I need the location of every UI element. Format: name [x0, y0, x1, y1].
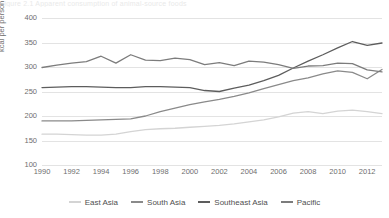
series-line-south-asia: [42, 69, 382, 120]
legend-item-east-asia[interactable]: East Asia: [69, 198, 118, 207]
figure-title-sliver: Figure 2.1 Apparent consumption of anima…: [0, 0, 389, 7]
legend-label-east-asia: East Asia: [85, 198, 118, 207]
legend-item-pacific[interactable]: Pacific: [281, 198, 321, 207]
series-lines: [42, 18, 382, 165]
legend-item-south-asia[interactable]: South Asia: [131, 198, 185, 207]
chart-legend: East AsiaSouth AsiaSoutheast AsiaPacific: [0, 195, 389, 209]
series-line-southeast-asia: [42, 42, 382, 92]
y-tick-label: 250: [0, 88, 37, 96]
y-tick-label: 300: [0, 63, 37, 71]
series-line-pacific: [42, 55, 382, 72]
legend-item-southeast-asia[interactable]: Southeast Asia: [198, 198, 267, 207]
y-tick-label: 200: [0, 112, 37, 120]
y-tick-label: 150: [0, 137, 37, 145]
series-line-east-asia: [42, 110, 382, 135]
legend-label-southeast-asia: Southeast Asia: [214, 198, 267, 207]
legend-label-pacific: Pacific: [297, 198, 321, 207]
figure-root: Figure 2.1 Apparent consumption of anima…: [0, 0, 389, 218]
x-axis-line: [42, 165, 382, 166]
legend-swatch-pacific: [281, 201, 293, 203]
legend-swatch-southeast-asia: [198, 201, 210, 203]
legend-swatch-east-asia: [69, 201, 81, 203]
y-tick-label: 350: [0, 39, 37, 47]
y-tick-label: 400: [0, 14, 37, 22]
x-tick-label: 2012: [350, 168, 384, 176]
legend-label-south-asia: South Asia: [147, 198, 185, 207]
plot-area: [42, 18, 382, 165]
legend-swatch-south-asia: [131, 201, 143, 203]
